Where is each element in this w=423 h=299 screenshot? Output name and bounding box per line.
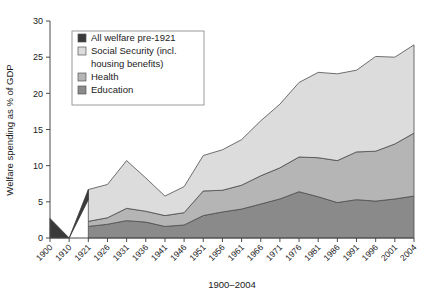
y-axis-title: Welfare spending as % of GDP [4, 64, 15, 195]
y-tick-label-30: 30 [33, 16, 43, 26]
x-tick-label-1996: 1996 [360, 242, 381, 263]
x-tick-label-1971: 1971 [264, 242, 285, 263]
legend-swatch-2 [78, 73, 86, 81]
legend-swatch-1 [78, 47, 86, 55]
y-axis-tick-labels: 051015202530 [33, 16, 43, 243]
x-tick-label-1961: 1961 [226, 242, 247, 263]
y-tick-label-5: 5 [38, 197, 43, 207]
legend: All welfare pre-1921Social Security (inc… [72, 31, 204, 105]
x-tick-label-1936: 1936 [130, 242, 151, 263]
legend-label-2: Health [91, 71, 118, 82]
welfare-spending-area-chart: 051015202530 190019101921192619311936194… [0, 0, 423, 299]
x-tick-marks [50, 238, 414, 242]
x-tick-label-1931: 1931 [111, 242, 132, 263]
x-axis-tick-labels: 1900191019211926193119361941194619511956… [34, 242, 419, 263]
legend-swatch-0 [78, 34, 86, 42]
legend-label-0: All welfare pre-1921 [91, 32, 176, 43]
x-tick-label-1956: 1956 [206, 242, 227, 263]
y-tick-label-25: 25 [33, 52, 43, 62]
x-tick-label-1926: 1926 [91, 242, 112, 263]
x-tick-label-1900: 1900 [34, 242, 55, 263]
x-tick-label-1966: 1966 [245, 242, 266, 263]
x-tick-label-1991: 1991 [340, 242, 361, 263]
x-tick-label-1941: 1941 [149, 242, 170, 263]
x-tick-label-1976: 1976 [283, 242, 304, 263]
chart-container: 051015202530 190019101921192619311936194… [0, 0, 423, 299]
area-series-all-welfare-pre-1921 [50, 190, 88, 238]
y-tick-label-20: 20 [33, 89, 43, 99]
x-axis-title: 1900–2004 [208, 279, 256, 290]
legend-label-1: Social Security (incl. [91, 45, 177, 56]
x-tick-label-1986: 1986 [321, 242, 342, 263]
y-tick-label-10: 10 [33, 161, 43, 171]
legend-label-3: Education [91, 84, 133, 95]
x-tick-label-2001: 2001 [379, 242, 400, 263]
x-tick-label-1921: 1921 [72, 242, 93, 263]
y-tick-label-0: 0 [38, 233, 43, 243]
x-tick-label-1951: 1951 [187, 242, 208, 263]
legend-swatch-3 [78, 86, 86, 94]
x-tick-label-1946: 1946 [168, 242, 189, 263]
y-tick-label-15: 15 [33, 125, 43, 135]
x-tick-label-1981: 1981 [302, 242, 323, 263]
x-tick-label-2004: 2004 [398, 242, 419, 263]
y-tick-marks [46, 21, 50, 238]
x-tick-label-1910: 1910 [53, 242, 74, 263]
legend-label-1-cont: housing benefits) [91, 58, 163, 69]
